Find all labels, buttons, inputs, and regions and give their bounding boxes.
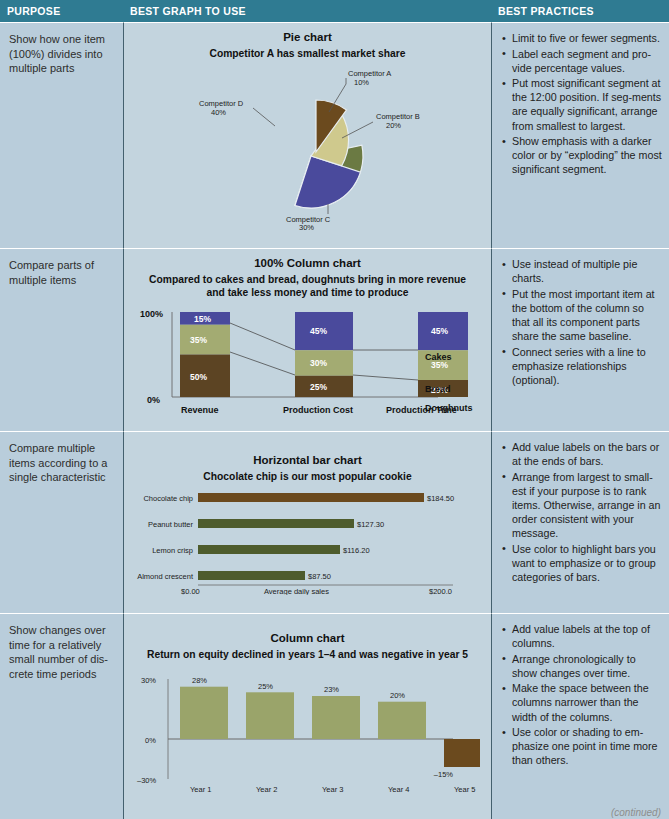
bar-chocolate-chip (198, 493, 424, 502)
pie-label-competitor-d: Competitor D (199, 99, 244, 108)
header-cell-best-graph: BEST GRAPH TO USE (123, 0, 491, 22)
practices-cell: Limit to five or fewer segments. Label e… (491, 22, 669, 248)
column-chart: 30% 0% –30% 28% 25% 23% 20% –15% (124, 665, 491, 793)
stack-label: 15% (194, 314, 211, 324)
list-item: Connect series with a line to emphasize … (501, 345, 662, 387)
table-row: Show changes over time for a relatively … (0, 613, 669, 819)
series-legend-bread: Bread (425, 384, 451, 394)
pie-value-competitor-c: 30% (299, 223, 314, 232)
connector-bread-2 (353, 375, 418, 380)
bar-lemon-crisp (198, 545, 340, 554)
column-year-3 (312, 696, 360, 739)
table-row: Compare parts of multiple items 100% Col… (0, 248, 669, 431)
purpose-cell: Compare multiple items according to a si… (0, 431, 123, 613)
column-year-5 (444, 739, 480, 767)
list-item: Arrange chronologically to show changes … (501, 652, 662, 680)
x-axis-tick-max: $200.0 (429, 587, 452, 595)
x-axis-label-year-2: Year 2 (256, 785, 277, 793)
list-item: Use color or shading to em-phasize one p… (501, 725, 662, 767)
pie-chart: Competitor A 10% Competitor B 20% Compet… (124, 64, 491, 232)
column-year-4 (378, 702, 426, 739)
horizontal-bar-chart: Chocolate chip Peanut butter Lemon crisp… (124, 487, 491, 595)
leader-line-d (253, 108, 275, 126)
y-axis-tick-bottom: –30% (137, 776, 157, 785)
series-legend-cakes: Cakes (425, 352, 452, 362)
purpose-cell: Show how one item (100%) divides into mu… (0, 22, 123, 248)
practices-list: Add value labels at the top of columns. … (501, 622, 662, 767)
pie-label-competitor-b: Competitor B (376, 112, 420, 121)
header-cell-best-practices: BEST PRACTICES (491, 0, 669, 22)
chart-subtitle: Return on equity declined in years 1–4 a… (124, 648, 491, 661)
stack-label: 45% (310, 326, 327, 336)
stack-label: 50% (190, 372, 207, 382)
pie-value-competitor-b: 20% (386, 121, 401, 130)
bar-value-label: $87.50 (308, 572, 331, 581)
table-row: Show how one item (100%) divides into mu… (0, 22, 669, 248)
column-value-label: 23% (324, 685, 339, 694)
table-row: Compare multiple items according to a si… (0, 431, 669, 613)
bar-category-label: Chocolate chip (143, 494, 193, 503)
list-item: Use instead of multiple pie charts. (501, 257, 662, 285)
stack-label: 25% (310, 382, 327, 392)
purpose-cell: Compare parts of multiple items (0, 248, 123, 431)
practices-cell: Add value labels at the top of columns. … (491, 613, 669, 819)
column-year-1 (180, 687, 228, 739)
bar-category-label: Lemon crisp (152, 546, 193, 555)
chart-title: Pie chart (124, 31, 491, 43)
y-axis-tick-zero: 0% (145, 736, 156, 745)
x-axis-label-year-4: Year 4 (388, 785, 409, 793)
bar-peanut-butter (198, 519, 354, 528)
pie-label-competitor-a: Competitor A (348, 69, 391, 78)
chart-title: Column chart (124, 632, 491, 644)
graph-cell-horizontal-bar: Horizontal bar chart Chocolate chip is o… (123, 431, 491, 613)
x-axis-title: Average daily sales (264, 587, 329, 595)
y-axis-tick-top: 100% (140, 309, 163, 319)
chart-subtitle: Competitor A has smallest market share (124, 47, 491, 60)
table-header-row: PURPOSE BEST GRAPH TO USE BEST PRACTICES (0, 0, 669, 22)
column-value-label: –15% (434, 770, 454, 779)
bar-almond-crescent (198, 571, 305, 580)
column-value-label: 28% (192, 676, 207, 685)
list-item: Label each segment and pro-vide percenta… (501, 47, 662, 75)
pie-value-competitor-a: 10% (354, 78, 369, 87)
list-item: Put most significant segment at the 12:0… (501, 76, 662, 132)
chart-subtitle: Compared to cakes and bread, doughnuts b… (124, 273, 491, 299)
stack-label: 30% (310, 358, 327, 368)
chart-title: 100% Column chart (124, 257, 491, 269)
bar-category-label: Peanut butter (147, 520, 193, 529)
pie-value-competitor-d: 40% (211, 108, 226, 117)
list-item: Make the space between the columns narro… (501, 681, 662, 723)
bar-value-label: $116.20 (343, 546, 370, 555)
connector-bread (230, 352, 295, 375)
practices-list: Add value labels on the bars or at the e… (501, 440, 662, 584)
list-item: Arrange from largest to small-est if you… (501, 470, 662, 540)
x-axis-label-year-3: Year 3 (322, 785, 343, 793)
graph-selection-reference-table: PURPOSE BEST GRAPH TO USE BEST PRACTICES… (0, 0, 669, 819)
list-item: Add value labels at the top of columns. (501, 622, 662, 650)
column-year-2 (246, 692, 294, 739)
list-item: Add value labels on the bars or at the e… (501, 440, 662, 468)
series-legend-doughnuts: Doughnuts (425, 403, 473, 413)
y-axis-tick-top: 30% (141, 676, 156, 685)
list-item: Limit to five or fewer segments. (501, 31, 662, 45)
practices-cell: Add value labels on the bars or at the e… (491, 431, 669, 613)
purpose-cell: Show changes over time for a relatively … (0, 613, 123, 819)
x-axis-tick-min: $0.00 (181, 587, 200, 595)
header-cell-purpose: PURPOSE (0, 0, 123, 22)
bar-category-label: Almond crescent (137, 572, 194, 581)
graph-cell-column: Column chart Return on equity declined i… (123, 613, 491, 819)
chart-subtitle: Chocolate chip is our most popular cooki… (124, 470, 491, 483)
x-axis-label-year-5: Year 5 (454, 785, 475, 793)
practices-list: Use instead of multiple pie charts. Put … (501, 257, 662, 387)
column-value-label: 20% (390, 691, 405, 700)
stack-label: 35% (190, 335, 207, 345)
stack-label: 45% (431, 326, 448, 336)
practices-list: Limit to five or fewer segments. Label e… (501, 31, 662, 176)
bar-value-label: $184.50 (427, 494, 454, 503)
list-item: Use color to highlight bars you want to … (501, 542, 662, 584)
list-item: Show emphasis with a darker color or by … (501, 134, 662, 176)
chart-title: Horizontal bar chart (124, 454, 491, 466)
connector-cakes (230, 323, 295, 350)
x-axis-label-production-cost: Production Cost (283, 405, 353, 415)
continued-footnote: (continued) (611, 807, 661, 818)
